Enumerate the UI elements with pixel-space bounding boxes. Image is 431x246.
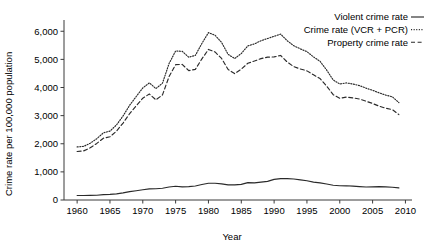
series-line-dotted <box>77 33 399 147</box>
y-axis-ticks: 01,0002,0003,0004,0005,0006,000 <box>34 26 64 206</box>
x-tick-label: 1980 <box>198 205 219 216</box>
y-tick-label: 0 <box>53 194 58 205</box>
y-tick-label: 4,000 <box>34 82 58 93</box>
x-tick-label: 2005 <box>362 205 383 216</box>
x-tick-label: 1960 <box>67 205 88 216</box>
chart-legend: Violent crime rateCrime rate (VCR + PCR)… <box>304 11 424 47</box>
y-tick-label: 6,000 <box>34 26 58 37</box>
y-tick-label: 3,000 <box>34 110 58 121</box>
legend-label-dotted: Crime rate (VCR + PCR) <box>304 24 408 35</box>
x-axis-ticks: 1960196519701975198019851990199520002005… <box>67 200 416 216</box>
series-line-dashed <box>77 49 399 151</box>
x-tick-label: 1965 <box>99 205 120 216</box>
y-tick-label: 5,000 <box>34 54 58 65</box>
x-tick-label: 1995 <box>296 205 317 216</box>
data-series-group <box>77 33 399 196</box>
x-tick-label: 1985 <box>231 205 252 216</box>
x-tick-label: 1990 <box>264 205 285 216</box>
legend-label-solid: Violent crime rate <box>334 11 408 22</box>
x-tick-label: 2010 <box>395 205 416 216</box>
x-tick-label: 1970 <box>132 205 153 216</box>
y-axis-title: Crime rate per 100,000 population <box>3 52 14 196</box>
x-tick-label: 2000 <box>329 205 350 216</box>
x-tick-label: 1975 <box>165 205 186 216</box>
legend-label-dashed: Property crime rate <box>327 37 408 48</box>
x-axis-title: Year <box>222 231 241 242</box>
chart-canvas: Crime rate per 100,000 population 01,000… <box>0 0 431 246</box>
y-tick-label: 2,000 <box>34 138 58 149</box>
series-line-solid <box>77 179 399 196</box>
crime-rate-line-chart: Crime rate per 100,000 population 01,000… <box>0 0 431 246</box>
y-tick-label: 1,000 <box>34 166 58 177</box>
